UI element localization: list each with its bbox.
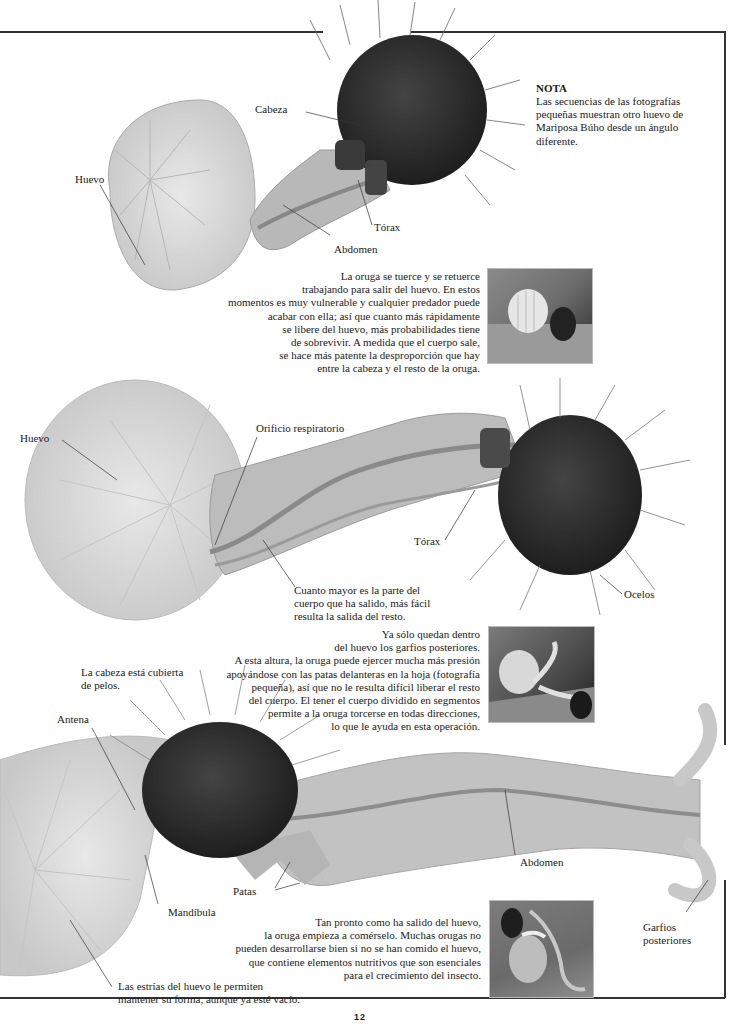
photo-1 <box>487 268 593 364</box>
small-photo-caterpillar-eating-egg-icon <box>490 901 593 997</box>
page-number: 12 <box>354 1012 366 1022</box>
note-line: Mariposa Búho desde un ángulo <box>536 121 683 134</box>
small-photo-caterpillar-emerging-icon <box>488 269 592 363</box>
caption-line: de sobrevivir. A medida que el cuerpo sa… <box>228 336 480 349</box>
caption-line: permite a la oruga torcerse en todas dir… <box>226 707 480 720</box>
label-head: Cabeza <box>255 103 287 116</box>
caption-line: que contiene elementos nutritivos que so… <box>235 956 481 969</box>
figure2-caption: Ya sólo quedan dentro del huevo los garf… <box>226 628 480 734</box>
caption-line: pequeña), así que no le resulta difícil … <box>226 681 480 694</box>
caption-line: La oruga se tuerce y se retuerce <box>228 270 480 283</box>
caption-line: del cuerpo. El tener el cuerpo dividido … <box>226 694 480 707</box>
label-legs: Patas <box>233 885 256 898</box>
caption-line: pueden desarrollarse bien si no se han c… <box>235 942 481 955</box>
caption-line: del huevo los garfios posteriores. <box>226 641 480 654</box>
figure1-illustration <box>100 0 525 290</box>
caption-line: se libere del huevo, más probabilidades … <box>228 323 480 336</box>
caterpillar-illustrations <box>0 0 736 1025</box>
note-line: diferente. <box>536 135 683 148</box>
caption-line: acabar con ella; así que cuanto más rápi… <box>228 310 480 323</box>
note-line: mantener su forma, aunque ya esté vacío. <box>118 993 300 1006</box>
photo-2 <box>488 626 595 723</box>
caption-line: Tan pronto como ha salido del huevo, <box>235 916 481 929</box>
note-line: resulta la salida del resto. <box>294 610 430 623</box>
label-line: de pelos. <box>81 679 183 692</box>
figure1-caption: La oruga se tuerce y se retuerce trabaja… <box>228 270 480 376</box>
label-line: posteriores <box>643 934 691 947</box>
label-abdomen-1: Abdomen <box>334 243 377 256</box>
figure3-caption: Tan pronto como ha salido del huevo, la … <box>235 916 481 982</box>
label-spiracle: Orificio respiratorio <box>256 422 344 435</box>
caption-line: la oruga empieza a comérselo. Muchas oru… <box>235 929 481 942</box>
caption-line: momentos es muy vulnerable y cualquier p… <box>228 296 480 309</box>
label-abdomen-3: Abdomen <box>520 856 563 869</box>
egg-ridges-note: Las estrías del huevo le permiten manten… <box>118 980 300 1006</box>
note-line: pequeñas muestran otro huevo de <box>536 108 683 121</box>
caption-line: trabajando para salir del huevo. En esto… <box>228 283 480 296</box>
caption-line: lo que le ayuda en esta operación. <box>226 720 480 733</box>
label-egg-1: Huevo <box>75 173 104 186</box>
label-mandible: Mandíbula <box>168 906 216 919</box>
label-thorax-1: Tórax <box>374 221 400 234</box>
label-line: Garfios <box>643 921 691 934</box>
caption-line: apoyándose con las patas delanteras en l… <box>226 668 480 681</box>
caption-line: A esta altura, la oruga puede ejercer mu… <box>226 654 480 667</box>
note-line: Cuanto mayor es la parte del <box>294 584 430 597</box>
label-ocelli: Ocelos <box>624 588 655 601</box>
caption-line: entre la cabeza y el resto de la oruga. <box>228 362 480 375</box>
note-title: NOTA <box>536 82 683 95</box>
note-line: Las estrías del huevo le permiten <box>118 980 300 993</box>
figure2-body-note: Cuanto mayor es la parte del cuerpo que … <box>294 584 430 624</box>
label-antenna: Antena <box>57 713 89 726</box>
photo-3 <box>489 900 594 998</box>
caption-line: Ya sólo quedan dentro <box>226 628 480 641</box>
label-egg-2: Huevo <box>20 432 49 445</box>
small-photo-caterpillar-leaving-egg-icon <box>489 627 594 722</box>
label-line: La cabeza está cubierta <box>81 666 183 679</box>
note-box: NOTA Las secuencias de las fotografías p… <box>536 82 683 148</box>
label-rear-hooks: Garfios posteriores <box>643 921 691 947</box>
note-line: cuerpo que ha salido, más fácil <box>294 597 430 610</box>
caption-line: se hace más patente la desproporción que… <box>228 349 480 362</box>
note-line: Las secuencias de las fotografías <box>536 95 683 108</box>
label-thorax-2: Tórax <box>414 535 440 548</box>
label-head-hairs: La cabeza está cubierta de pelos. <box>81 666 183 692</box>
